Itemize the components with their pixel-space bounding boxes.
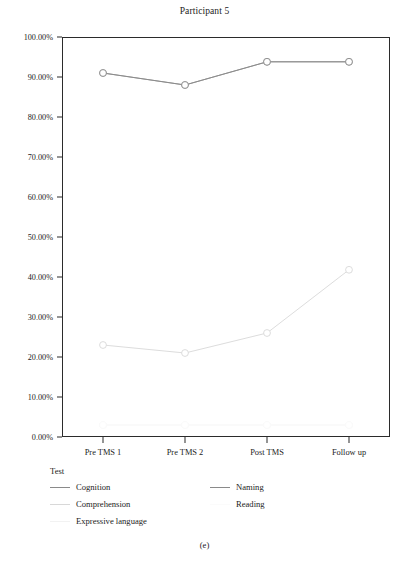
y-tick-label: 90.00% <box>28 73 53 82</box>
legend-swatch-icon <box>50 487 70 488</box>
y-tick-label: 0.00% <box>32 433 53 442</box>
series-comprehension <box>100 266 353 356</box>
legend-item[interactable]: Naming <box>210 483 264 492</box>
y-tick-label: 60.00% <box>28 193 53 202</box>
x-tick-mark <box>185 437 186 443</box>
x-tick-mark <box>267 437 268 443</box>
data-point-marker <box>264 58 271 65</box>
data-point-marker <box>346 422 353 429</box>
x-axis: Pre TMS 1Pre TMS 2Post TMSFollow up <box>62 437 390 467</box>
y-tick-label: 100.00% <box>24 33 53 42</box>
legend-swatch-icon <box>210 487 230 488</box>
y-tick-label: 40.00% <box>28 273 53 282</box>
legend-swatch-icon <box>50 521 70 522</box>
data-point-marker <box>182 350 189 357</box>
legend-swatch-icon <box>210 504 230 505</box>
y-tick-label: 80.00% <box>28 113 53 122</box>
series-line <box>103 62 349 85</box>
y-tick-label: 20.00% <box>28 353 53 362</box>
data-point-marker <box>264 330 271 337</box>
y-tick-label: 10.00% <box>28 393 53 402</box>
legend-swatch-icon <box>50 504 70 505</box>
figure-panel-e: Participant 5 0.00%10.00%20.00%30.00%40.… <box>0 0 409 568</box>
data-point-marker <box>182 82 189 89</box>
legend-item[interactable]: Comprehension <box>50 500 130 509</box>
x-tick-label: Pre TMS 2 <box>167 448 204 457</box>
legend-item[interactable]: Expressive language <box>50 517 147 526</box>
x-tick-mark <box>349 437 350 443</box>
x-tick-label: Post TMS <box>250 448 284 457</box>
data-point-marker <box>100 342 107 349</box>
figure-caption: (e) <box>0 540 409 550</box>
data-point-marker <box>264 422 271 429</box>
data-point-marker <box>182 422 189 429</box>
legend-title: Test <box>50 466 390 476</box>
legend-label: Naming <box>236 483 264 492</box>
data-point-marker <box>100 422 107 429</box>
series-reading <box>100 422 353 429</box>
x-tick-mark <box>103 437 104 443</box>
x-tick-label: Pre TMS 1 <box>85 448 122 457</box>
y-tick-label: 70.00% <box>28 153 53 162</box>
data-point-marker <box>100 70 107 77</box>
legend-label: Reading <box>236 500 265 509</box>
data-point-marker <box>346 266 353 273</box>
data-point-marker <box>346 58 353 65</box>
series-layer <box>62 37 390 437</box>
series-line <box>103 270 349 353</box>
chart-title: Participant 5 <box>0 6 409 16</box>
series-naming <box>100 58 353 88</box>
legend-label: Cognition <box>76 483 110 492</box>
x-tick-label: Follow up <box>332 448 366 457</box>
legend-item[interactable]: Reading <box>210 500 265 509</box>
legend-item[interactable]: Cognition <box>50 483 110 492</box>
legend-items: CognitionComprehensionExpressive languag… <box>50 483 380 535</box>
y-tick-label: 30.00% <box>28 313 53 322</box>
y-axis: 0.00%10.00%20.00%30.00%40.00%50.00%60.00… <box>0 30 62 445</box>
legend-label: Comprehension <box>76 500 130 509</box>
legend-label: Expressive language <box>76 517 147 526</box>
y-tick-label: 50.00% <box>28 233 53 242</box>
legend: Test CognitionComprehensionExpressive la… <box>50 466 390 535</box>
